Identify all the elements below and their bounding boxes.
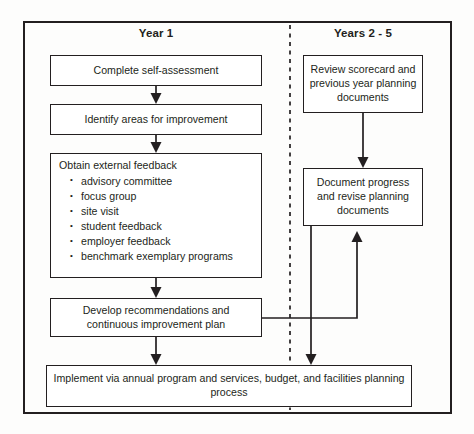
node-implement-annual-planning: Implement via annual program and service… xyxy=(46,365,412,407)
node-review-scorecard: Review scorecard and previous year plann… xyxy=(303,55,423,113)
obtain-feedback-bullet-item: site visit xyxy=(70,204,255,219)
node-review-scorecard-label: Review scorecard and previous year plann… xyxy=(309,63,417,105)
node-identify-areas-label: Identify areas for improvement xyxy=(84,113,227,127)
obtain-feedback-bullet-list: advisory committeefocus groupsite visits… xyxy=(59,174,255,264)
column-header-year-1: Year 1 xyxy=(50,27,262,39)
node-complete-self-assessment: Complete self-assessment xyxy=(50,55,262,86)
node-obtain-feedback-title: Obtain external feedback xyxy=(59,159,255,173)
obtain-feedback-bullet-item: employer feedback xyxy=(70,234,255,249)
node-complete-self-assessment-label: Complete self-assessment xyxy=(94,64,219,78)
obtain-feedback-bullet-item: benchmark exemplary programs xyxy=(70,249,255,264)
node-document-progress: Document progress and revise planning do… xyxy=(303,168,423,226)
flowchart-diagram: Year 1 Years 2 - 5 Complete self-assessm… xyxy=(0,0,474,434)
node-document-progress-label: Document progress and revise planning do… xyxy=(309,176,417,218)
node-identify-areas-for-improvement: Identify areas for improvement xyxy=(50,104,262,135)
node-implement-label: Implement via annual program and service… xyxy=(52,372,406,400)
node-develop-recommendations-label: Develop recommendations and continuous i… xyxy=(56,304,256,332)
obtain-feedback-bullet-item: advisory committee xyxy=(70,174,255,189)
obtain-feedback-bullet-item: focus group xyxy=(70,189,255,204)
obtain-feedback-bullet-item: student feedback xyxy=(70,219,255,234)
node-obtain-external-feedback: Obtain external feedback advisory commit… xyxy=(50,153,262,278)
column-header-years-2-5: Years 2 - 5 xyxy=(303,27,423,39)
node-develop-recommendations: Develop recommendations and continuous i… xyxy=(50,298,262,337)
